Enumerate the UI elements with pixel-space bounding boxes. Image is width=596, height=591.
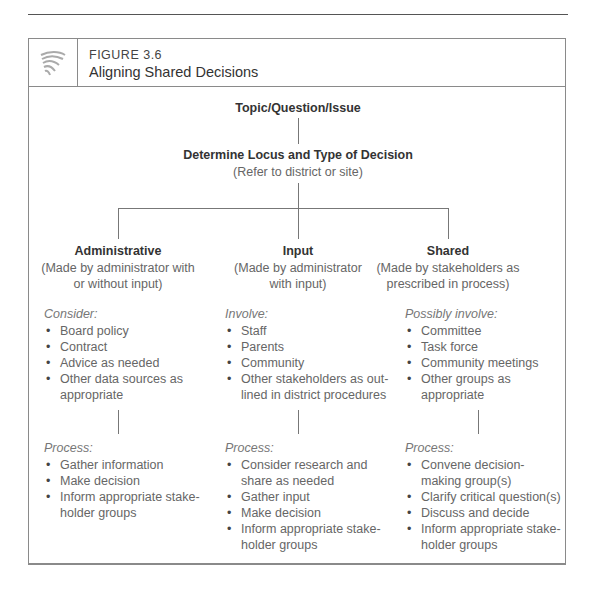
shared-process-list: Process: Convene decision-making group(s… (405, 440, 565, 553)
locus-node-title: Determine Locus and Type of Decision (148, 148, 448, 162)
column-title-shared: Shared (363, 244, 533, 258)
top-rule (28, 14, 568, 15)
input-involve-list: Involve: Staff Parents Community Other s… (225, 306, 395, 403)
connector-horizontal (118, 208, 448, 209)
list-item: Other groups as appropriate (405, 371, 531, 403)
input-process-list: Process: Consider research and share as … (225, 440, 395, 553)
root-node: Topic/Question/Issue (198, 101, 398, 115)
column-subtitle-shared: (Made by stakeholders as prescribed in p… (363, 260, 533, 292)
decorative-swirl-icon (39, 49, 67, 77)
list-item: Clarify critical question(s) (405, 489, 565, 505)
list-item: Parents (225, 339, 395, 355)
shared-involve-list: Possibly involve: Committee Task force C… (405, 306, 565, 403)
list-item: Advice as needed (44, 355, 214, 371)
list-item: Task force (405, 339, 565, 355)
list-item: Gather input (225, 489, 395, 505)
figure-header: FIGURE 3.6 Aligning Shared Decisions (29, 39, 565, 87)
list-item: Community (225, 355, 395, 371)
administrative-process-list: Process: Gather information Make decisio… (44, 440, 214, 521)
list-item: Inform appropriate stake-holder groups (44, 489, 200, 521)
list-item: Discuss and decide (405, 505, 565, 521)
connector-root (298, 118, 299, 144)
list-item: Community meetings (405, 355, 565, 371)
connector-input-process (298, 410, 299, 434)
connector-shared-process (478, 410, 479, 434)
administrative-consider-list: Consider: Board policy Contract Advice a… (44, 306, 214, 403)
connector-left (118, 208, 119, 239)
column-title-administrative: Administrative (33, 244, 203, 258)
column-subtitle-administrative: (Made by administrator with or without i… (33, 260, 203, 292)
connector-center (298, 183, 299, 239)
list-item: Make decision (44, 473, 214, 489)
list-item: Contract (44, 339, 214, 355)
figure-title: Aligning Shared Decisions (89, 64, 258, 80)
list-item: Inform appropriate stake-holder groups (405, 521, 561, 553)
connector-administrative-process (118, 410, 119, 434)
locus-node-subtitle: (Refer to district or site) (148, 164, 448, 180)
icon-cell (29, 39, 78, 86)
list-item: Inform appropriate stake-holder groups (225, 521, 381, 553)
list-item: Board policy (44, 323, 214, 339)
list-item: Other stakeholders as out-lined in distr… (225, 371, 391, 403)
column-subtitle-input: (Made by administrator with input) (213, 260, 383, 292)
connector-right (448, 208, 449, 239)
list-item: Convene decision-making group(s) (405, 457, 561, 489)
column-title-input: Input (213, 244, 383, 258)
list-item: Committee (405, 323, 565, 339)
figure-number: FIGURE 3.6 (89, 48, 162, 62)
list-item: Make decision (225, 505, 395, 521)
list-item: Staff (225, 323, 395, 339)
list-item: Consider research and share as needed (225, 457, 376, 489)
list-item: Other data sources as appropriate (44, 371, 200, 403)
list-item: Gather information (44, 457, 214, 473)
